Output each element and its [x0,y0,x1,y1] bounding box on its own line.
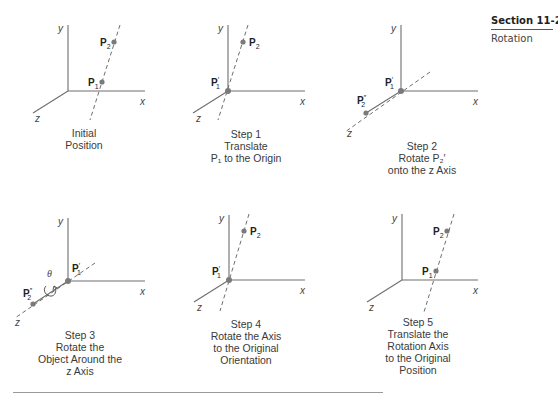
p1-prime-label: P′1 [72,262,81,276]
p1-prime-label: P′1 [211,76,220,90]
x-axis-label: x [299,96,306,107]
x-axis-label: x [472,285,479,296]
x-axis-label: x [299,285,306,296]
point-p1-prime [226,277,232,283]
p1-prime-label: P′1 [212,265,221,279]
caption-initial: Initial Position [65,127,102,151]
p2-label: P2 [100,37,111,50]
point-p1-prime [65,278,71,284]
p2-double-prime-label: P″2 [357,94,367,108]
p2-label: P2 [249,37,260,50]
caption-step2: Step 2 Rotate P₂′ onto the z Axis [388,140,456,176]
panel-step5-diagram: y x z P2 P1 [367,213,479,313]
section-header: Section 11-2 Rotation [491,15,553,44]
panel-initial-diagram: y x z P2 P1 [33,23,146,124]
rotation-axis-line [218,25,248,120]
z-axis-label: z [34,113,40,124]
y-axis-label: y [391,213,398,224]
bottom-rule-divider [13,392,383,393]
point-p2-double-prime [30,301,35,306]
p2-label: P2 [250,226,261,239]
z-axis [194,280,229,302]
point-p2-double-prime [363,110,368,115]
point-p2 [111,39,116,44]
x-axis-label: x [139,286,146,297]
caption-step3: Step 3 Rotate the Object Around the z Ax… [38,329,122,377]
theta-label: θ [47,268,52,279]
point-p1-prime [225,88,231,94]
point-p2 [241,228,246,233]
p2-label: P2 [433,226,444,239]
point-p1-prime [398,88,404,94]
z-axis [193,91,228,113]
point-p1 [99,79,104,84]
p1-label: P1 [422,266,433,279]
point-p2 [240,39,245,44]
panel-step4-diagram: y x z P2 P′1 [194,213,306,313]
caption-step5: Step 5 Translate the Rotation Axis to th… [385,316,450,376]
z-axis [366,91,401,113]
x-axis-label: x [139,96,146,107]
caption-step4: Step 4 Rotate the Axis to the Original O… [211,318,282,366]
section-title: Rotation [491,33,553,44]
panel-step3-diagram: θ y x z P″2 P′1 [14,216,146,328]
z-axis [33,91,68,113]
z-axis-label: z [195,113,201,124]
z-axis-label: z [196,302,202,313]
p2-double-prime-label: P″2 [23,287,33,301]
z-axis-label: z [14,317,20,328]
y-axis-label: y [217,23,224,34]
y-axis-label: y [57,23,64,34]
panel-step2-diagram: y x z P″2 P′1 [345,23,479,139]
section-number: Section 11-2 [491,15,553,30]
z-axis [33,281,68,304]
x-axis-label: x [472,96,479,107]
y-axis-label: y [57,216,64,227]
caption-step1: Step 1 Translate P₁ to the Origin [211,128,282,164]
p1-prime-label: P′1 [385,76,394,90]
panel-step1-diagram: y x z P2 P′1 [193,23,306,124]
point-p2 [444,228,449,233]
y-axis-label: y [218,213,225,224]
z-axis-label: z [346,128,352,139]
p1-label: P1 [88,77,99,90]
y-axis-label: y [390,23,397,34]
point-p1 [433,268,438,273]
z-axis [367,280,402,302]
z-axis-label: z [368,302,374,313]
